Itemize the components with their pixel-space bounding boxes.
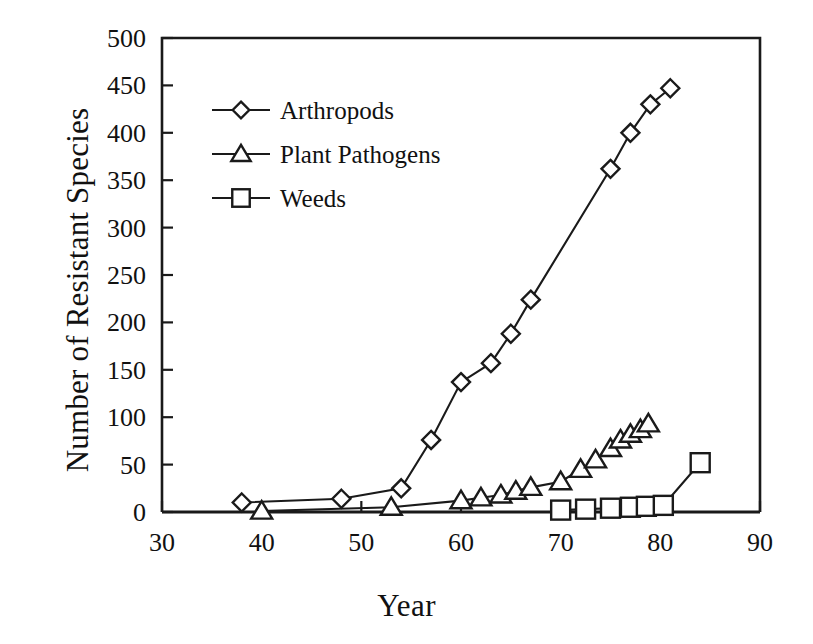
y-tick-label-150: 150: [107, 356, 146, 385]
diamond-marker: [392, 479, 410, 497]
y-tick-label-0: 0: [133, 498, 146, 527]
y-tick-label-450: 450: [107, 71, 146, 100]
diamond-marker: [621, 124, 639, 142]
x-tick-label-30: 30: [149, 528, 175, 557]
y-tick-label-350: 350: [107, 166, 146, 195]
x-tick-label-80: 80: [647, 528, 673, 557]
y-tick-label-200: 200: [107, 308, 146, 337]
chart-page: Number of Resistant Species Year 0501001…: [0, 0, 813, 644]
y-tick-label-500: 500: [107, 24, 146, 53]
square-marker: [576, 500, 595, 519]
diamond-marker: [522, 291, 540, 309]
square-marker: [232, 189, 249, 206]
diamond-marker: [482, 354, 500, 372]
series-weeds: [551, 453, 710, 519]
x-tick-label-90: 90: [747, 528, 773, 557]
line-chart-svg: 0501001502002503003504004505003040506070…: [0, 0, 813, 644]
diamond-marker: [452, 373, 470, 391]
x-tick-label-40: 40: [249, 528, 275, 557]
series-plant-pathogens: [251, 414, 659, 519]
tick-labels-group: 0501001502002503003504004505003040506070…: [107, 24, 773, 557]
legend-item-weeds[interactable]: Weeds: [212, 185, 346, 212]
legend-group: ArthropodsPlant PathogensWeeds: [212, 97, 440, 212]
y-tick-label-50: 50: [120, 451, 146, 480]
triangle-marker: [231, 145, 250, 161]
diamond-marker: [233, 102, 250, 119]
square-marker: [654, 496, 673, 515]
diamond-marker: [602, 160, 620, 178]
legend-label: Weeds: [280, 185, 346, 212]
plot-area: 0501001502002503003504004505003040506070…: [0, 0, 813, 644]
y-tick-label-100: 100: [107, 403, 146, 432]
legend-item-arthropods[interactable]: Arthropods: [212, 97, 394, 124]
y-tick-label-300: 300: [107, 214, 146, 243]
legend-item-plant-pathogens[interactable]: Plant Pathogens: [212, 141, 440, 168]
square-marker: [691, 453, 710, 472]
diamond-marker: [332, 490, 350, 508]
y-tick-label-400: 400: [107, 119, 146, 148]
diamond-marker: [502, 325, 520, 343]
x-tick-label-60: 60: [448, 528, 474, 557]
square-marker: [601, 499, 620, 518]
diamond-marker: [422, 431, 440, 449]
diamond-marker: [233, 494, 251, 512]
x-tick-label-70: 70: [548, 528, 574, 557]
square-marker: [551, 501, 570, 520]
legend-label: Arthropods: [280, 97, 394, 124]
y-tick-label-250: 250: [107, 261, 146, 290]
triangle-marker: [550, 472, 571, 490]
x-tick-label-50: 50: [348, 528, 374, 557]
legend-label: Plant Pathogens: [280, 141, 440, 168]
